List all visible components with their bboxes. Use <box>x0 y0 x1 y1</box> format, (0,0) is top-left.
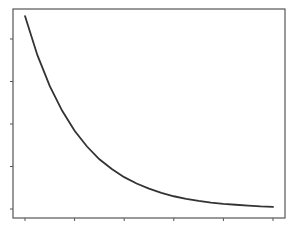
plot-area <box>13 9 285 218</box>
line-chart <box>0 0 292 232</box>
